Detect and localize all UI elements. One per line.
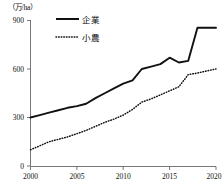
x-tick-label-2015: 2015 bbox=[162, 172, 177, 181]
x-tick-label-2005: 2005 bbox=[69, 172, 84, 181]
x-axis-ticks bbox=[31, 167, 217, 171]
x-tick-label-2010: 2010 bbox=[116, 172, 131, 181]
y-axis-ticks bbox=[27, 21, 31, 167]
y-tick-label-900: 900 bbox=[13, 16, 25, 25]
x-tick-label-2000: 2000 bbox=[23, 172, 38, 181]
legend-label-shono: 小農 bbox=[82, 33, 100, 43]
y-tick-label-0: 0 bbox=[20, 162, 24, 171]
y-tick-label-600: 600 bbox=[13, 65, 25, 74]
chart-legend: 企業 小農 bbox=[56, 15, 100, 43]
legend-label-kigyo: 企業 bbox=[82, 15, 100, 25]
series-line-kigyo bbox=[31, 28, 217, 118]
line-chart-plot: 900 600 300 0 2000 2005 2010 2015 2020 企… bbox=[0, 0, 224, 189]
x-tick-label-2020: 2020 bbox=[207, 172, 222, 181]
y-tick-label-300: 300 bbox=[13, 113, 25, 122]
chart-container: （万/ha） 900 600 300 0 2000 2005 2010 bbox=[0, 0, 224, 189]
